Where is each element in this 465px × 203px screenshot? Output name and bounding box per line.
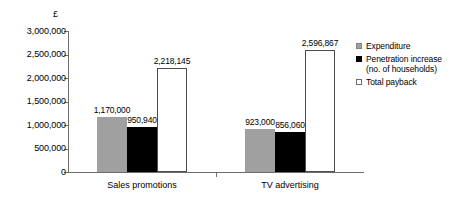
legend-swatch-icon (356, 43, 362, 49)
bar-penetration[interactable] (275, 132, 305, 172)
chart-legend: ExpenditurePenetration increase(no. of h… (356, 41, 464, 90)
bar-chart: £ 0500,0001,000,0001,500,0002,000,0002,5… (0, 0, 465, 203)
bar-penetration[interactable] (127, 127, 157, 172)
legend-label: Expenditure (366, 41, 410, 51)
y-axis-tick-label: 1,500,000 (27, 97, 66, 106)
y-axis-tick-label: 0 (61, 168, 66, 177)
legend-label: Penetration increase(no. of households) (366, 54, 442, 74)
x-axis-category-label: Sales promotions (68, 180, 216, 190)
y-axis-tick-label: 2,500,000 (27, 50, 66, 59)
x-axis-category-label: TV advertising (216, 180, 364, 190)
plot-area: 1,170,000950,9402,218,145923,000856,0602… (68, 31, 364, 172)
legend-item-total-payback[interactable]: Total payback (356, 77, 464, 87)
bar-value-label: 2,596,867 (296, 39, 344, 48)
y-axis-tick-label: 3,000,000 (27, 27, 66, 36)
bar-total-payback[interactable] (157, 68, 187, 172)
bar-value-label: 2,218,145 (148, 57, 196, 66)
bar-expenditure[interactable] (245, 129, 275, 172)
y-axis-tick-label: 500,000 (34, 144, 66, 153)
y-axis-tick-label: 2,000,000 (27, 74, 66, 83)
y-axis-unit-label: £ (53, 10, 58, 19)
legend-swatch-icon (356, 56, 362, 62)
legend-swatch-icon (356, 79, 362, 85)
legend-item-penetration[interactable]: Penetration increase(no. of households) (356, 54, 464, 74)
bar-value-label: 1,170,000 (88, 106, 136, 115)
x-axis-tick (216, 173, 217, 177)
bar-total-payback[interactable] (305, 50, 335, 172)
y-axis-tick-label: 1,000,000 (27, 121, 66, 130)
legend-label: Total payback (366, 77, 417, 87)
legend-item-expenditure[interactable]: Expenditure (356, 41, 464, 51)
